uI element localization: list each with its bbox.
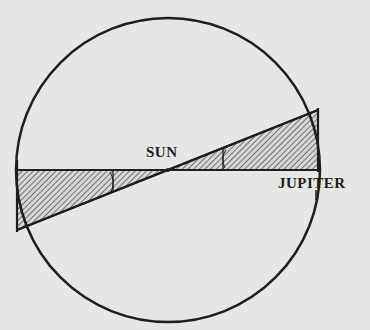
jupiter-label: JUPITER <box>278 175 346 192</box>
diagram-canvas: SUN JUPITER <box>0 0 370 330</box>
orbit-diagram <box>0 0 370 330</box>
sun-point <box>166 168 170 172</box>
sun-label: SUN <box>146 144 178 161</box>
